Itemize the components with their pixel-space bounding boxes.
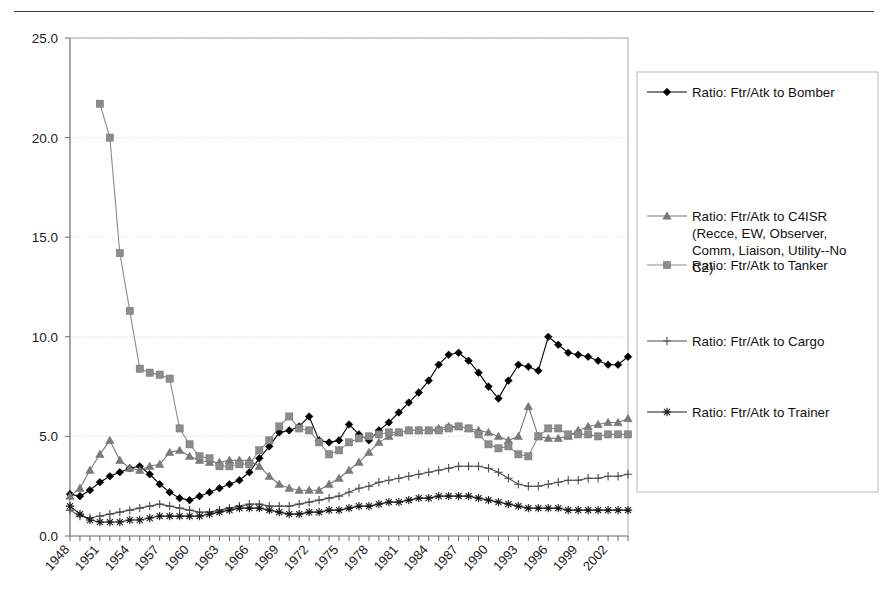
legend-label: (Recce, EW, Observer, bbox=[692, 226, 827, 241]
marker-plus bbox=[514, 480, 522, 488]
marker-asterisk bbox=[564, 506, 572, 514]
marker-diamond bbox=[663, 88, 671, 96]
marker-asterisk bbox=[544, 504, 552, 512]
marker-asterisk bbox=[175, 512, 183, 520]
marker-asterisk bbox=[315, 508, 323, 516]
marker-asterisk bbox=[385, 498, 393, 506]
marker-square bbox=[246, 461, 253, 468]
marker-square bbox=[595, 433, 602, 440]
marker-square bbox=[156, 371, 163, 378]
x-tick-label: 1990 bbox=[460, 542, 490, 574]
marker-square bbox=[196, 453, 203, 460]
marker-asterisk bbox=[185, 512, 193, 520]
marker-plus bbox=[365, 482, 373, 490]
y-tick-label: 0.0 bbox=[39, 529, 58, 544]
legend-entry-4[interactable]: Ratio: Ftr/Atk to Cargo bbox=[647, 334, 824, 349]
marker-plus bbox=[415, 470, 423, 478]
x-tick-label: 1993 bbox=[490, 542, 520, 574]
marker-square bbox=[465, 425, 472, 432]
marker-diamond bbox=[226, 480, 234, 488]
grid-lines bbox=[70, 38, 628, 436]
marker-square bbox=[335, 447, 342, 454]
chart-legend: Ratio: Ftr/Atk to BomberRatio: Ftr/Atk t… bbox=[637, 72, 878, 492]
marker-plus bbox=[325, 494, 333, 502]
marker-plus bbox=[146, 502, 154, 510]
marker-asterisk bbox=[265, 506, 273, 514]
marker-plus bbox=[285, 502, 293, 510]
marker-asterisk bbox=[86, 516, 94, 524]
marker-triangle bbox=[375, 438, 383, 445]
marker-plus bbox=[564, 476, 572, 484]
marker-plus bbox=[624, 470, 632, 478]
marker-diamond bbox=[604, 361, 612, 369]
marker-asterisk bbox=[76, 510, 84, 518]
marker-plus bbox=[444, 464, 452, 472]
marker-diamond bbox=[216, 484, 224, 492]
x-tick-label: 1987 bbox=[430, 542, 460, 574]
marker-plus bbox=[385, 476, 393, 484]
marker-triangle bbox=[86, 466, 94, 473]
marker-square bbox=[296, 425, 303, 432]
marker-square bbox=[375, 431, 382, 438]
marker-square bbox=[455, 423, 462, 430]
marker-plus bbox=[534, 482, 542, 490]
marker-asterisk bbox=[325, 506, 333, 514]
marker-plus bbox=[155, 500, 163, 508]
marker-asterisk bbox=[136, 516, 144, 524]
marker-triangle bbox=[106, 436, 114, 443]
marker-triangle bbox=[285, 484, 293, 491]
legend-entry-3[interactable]: Ratio: Ftr/Atk to Tanker bbox=[647, 258, 828, 273]
marker-asterisk bbox=[165, 512, 173, 520]
legend-entry-5[interactable]: Ratio: Ftr/Atk to Trainer bbox=[647, 405, 830, 420]
marker-triangle bbox=[76, 484, 84, 491]
marker-triangle bbox=[524, 402, 532, 409]
marker-square bbox=[545, 425, 552, 432]
marker-diamond bbox=[594, 357, 602, 365]
marker-asterisk bbox=[514, 502, 522, 510]
marker-asterisk bbox=[245, 504, 253, 512]
marker-asterisk bbox=[235, 504, 243, 512]
marker-triangle bbox=[494, 432, 502, 439]
marker-asterisk bbox=[415, 494, 423, 502]
marker-diamond bbox=[285, 427, 293, 435]
marker-asterisk bbox=[464, 492, 472, 500]
legend-label: Ratio: Ftr/Atk to C4ISR bbox=[692, 209, 827, 224]
marker-triangle bbox=[325, 480, 333, 487]
marker-asterisk bbox=[205, 510, 213, 518]
legend-label: Ratio: Ftr/Atk to Cargo bbox=[692, 334, 824, 349]
marker-triangle bbox=[275, 480, 283, 487]
y-tick-label: 5.0 bbox=[39, 429, 58, 444]
marker-plus bbox=[175, 504, 183, 512]
marker-asterisk bbox=[663, 408, 671, 416]
marker-asterisk bbox=[425, 494, 433, 502]
marker-square bbox=[445, 425, 452, 432]
marker-triangle bbox=[504, 436, 512, 443]
marker-plus bbox=[663, 337, 671, 345]
marker-asterisk bbox=[335, 506, 343, 514]
marker-asterisk bbox=[614, 506, 622, 514]
marker-asterisk bbox=[295, 510, 303, 518]
marker-square bbox=[216, 463, 223, 470]
marker-diamond bbox=[186, 496, 194, 504]
marker-diamond bbox=[206, 488, 214, 496]
marker-asterisk bbox=[434, 492, 442, 500]
y-tick-label: 25.0 bbox=[32, 31, 58, 46]
marker-square bbox=[365, 433, 372, 440]
marker-diamond bbox=[106, 472, 114, 480]
marker-square bbox=[485, 441, 492, 448]
marker-asterisk bbox=[255, 504, 263, 512]
marker-square bbox=[136, 365, 143, 372]
x-tick-label: 1969 bbox=[251, 542, 281, 574]
x-tick-label: 1972 bbox=[281, 542, 311, 574]
legend-box bbox=[637, 72, 878, 492]
marker-plus bbox=[524, 482, 532, 490]
legend-entry-1[interactable]: Ratio: Ftr/Atk to Bomber bbox=[647, 85, 835, 100]
marker-triangle bbox=[345, 466, 353, 473]
marker-plus bbox=[594, 474, 602, 482]
marker-asterisk bbox=[285, 510, 293, 518]
marker-triangle bbox=[335, 474, 343, 481]
marker-square bbox=[415, 427, 422, 434]
marker-square bbox=[575, 431, 582, 438]
marker-square bbox=[306, 427, 313, 434]
marker-asterisk bbox=[106, 518, 114, 526]
